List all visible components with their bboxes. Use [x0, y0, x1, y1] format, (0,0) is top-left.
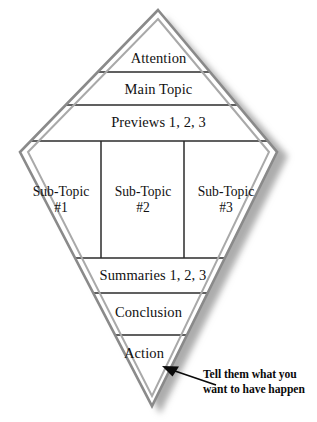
diagram-canvas: Attention Main Topic Previews 1, 2, 3 Su…	[0, 0, 317, 422]
diamond-framework-graphic	[0, 0, 317, 422]
diamond-body	[20, 10, 277, 406]
